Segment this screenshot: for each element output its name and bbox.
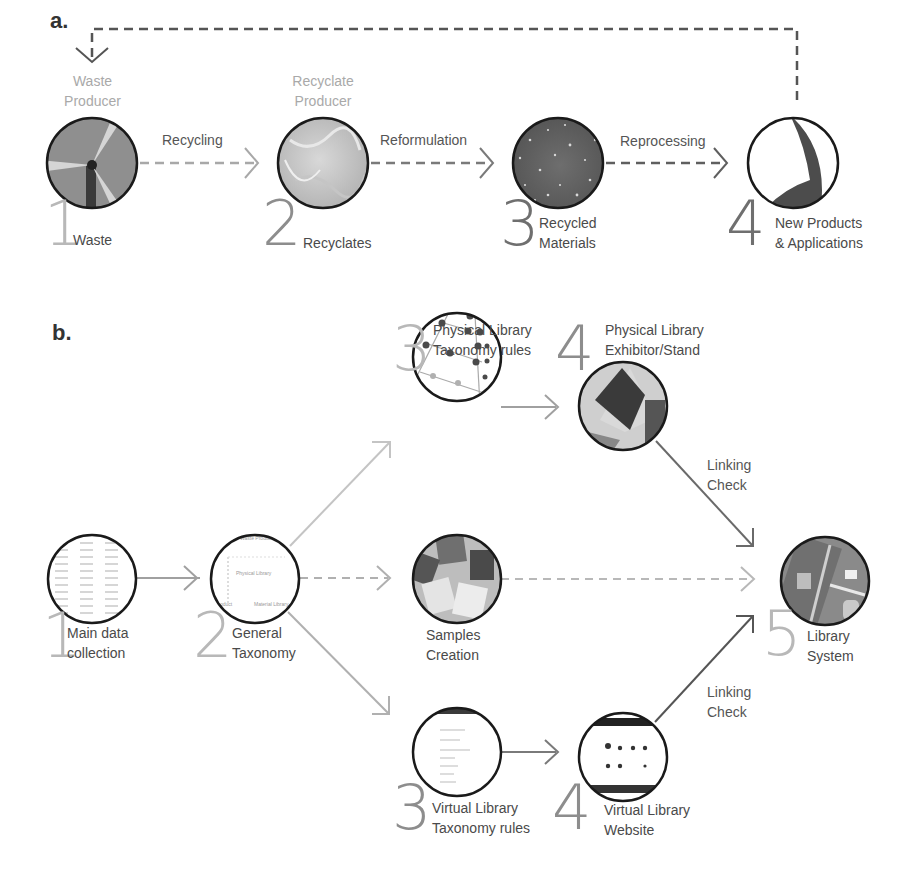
label-line2: collection (67, 643, 128, 663)
node-label-waste: Waste (73, 230, 112, 250)
edge-reformulation (371, 148, 493, 178)
label-line2: & Applications (775, 233, 863, 253)
label-line2: Check (707, 702, 751, 722)
label-line1: Physical Library (605, 320, 704, 340)
node-label-samples-creation: Samples Creation (426, 625, 480, 665)
node-samples-image (408, 531, 505, 627)
taxonomy-text-physical-library: Physical Library (236, 570, 272, 576)
step-number-3: 3 (500, 193, 537, 255)
label-line1: General (232, 623, 296, 643)
node-label-general-taxonomy: General Taxonomy (232, 623, 296, 663)
step-number-5-system: 5 (762, 603, 799, 665)
role-line1: Waste (55, 71, 130, 91)
role-recyclate-producer: Recyclate Producer (283, 71, 363, 111)
edge-general-to-physical-taxonomy (290, 442, 390, 546)
step-number-4: 4 (726, 193, 763, 255)
node-label-recycled-materials: Recycled Materials (539, 213, 597, 253)
step-number-4-virtual: 4 (552, 777, 589, 839)
edge-label-reformulation: Reformulation (380, 130, 467, 150)
label-line1: Virtual Library (432, 798, 530, 818)
edge-reprocessing (606, 148, 727, 178)
edge-label-reprocessing: Reprocessing (620, 131, 706, 151)
taxonomy-text-material-library: Material Library (254, 601, 289, 607)
edge-recycling (140, 148, 258, 178)
label-line2: Creation (426, 645, 480, 665)
node-label-physical-taxonomy: Physical Library Taxonomy rules (433, 320, 532, 360)
role-waste-producer: Waste Producer (55, 71, 130, 111)
label-line2: Taxonomy (232, 643, 296, 663)
label-line1: Virtual Library (604, 800, 690, 820)
panel-a-label: a. (50, 8, 68, 34)
node-label-virtual-taxonomy: Virtual Library Taxonomy rules (432, 798, 530, 838)
panel-b-label: b. (52, 320, 72, 346)
edge-label-recycling: Recycling (162, 130, 223, 150)
step-number-3-physical: 3 (392, 318, 429, 380)
edge-physical-taxonomy-to-stand (501, 395, 558, 419)
edge-label-linking-check-virtual: Linking Check (707, 682, 751, 722)
label-line1: Library (807, 626, 854, 646)
edge-samples-to-system (501, 567, 754, 591)
node-label-library-system: Library System (807, 626, 854, 666)
label-line1: New Products (775, 213, 863, 233)
edge-general-to-virtual-taxonomy (288, 612, 389, 714)
label-line2: Exhibitor/Stand (605, 340, 704, 360)
feedback-loop-arrow (92, 29, 797, 100)
label-line1: Recycled (539, 213, 597, 233)
edge-label-linking-check-physical: Linking Check (707, 455, 751, 495)
label-line1: Linking (707, 455, 751, 475)
edge-general-to-samples (300, 566, 390, 590)
edge-virtual-taxonomy-to-website (501, 740, 558, 764)
node-label-recyclates: Recyclates (303, 233, 371, 253)
role-line2: Producer (55, 91, 130, 111)
node-label-physical-stand: Physical Library Exhibitor/Stand (605, 320, 704, 360)
role-line2: Producer (283, 91, 363, 111)
label-line2: Taxonomy rules (433, 340, 532, 360)
node-label-main-data: Main data collection (67, 623, 128, 663)
role-line1: Recyclate (283, 71, 363, 91)
node-label-virtual-website: Virtual Library Website (604, 800, 690, 840)
step-number-4-physical: 4 (555, 318, 592, 380)
label-line2: Materials (539, 233, 597, 253)
step-number-2: 2 (262, 193, 299, 255)
label-line2: Taxonomy rules (432, 818, 530, 838)
label-line1: Samples (426, 625, 480, 645)
label-line2: Check (707, 475, 751, 495)
label-line1: Main data (67, 623, 128, 643)
label-line2: Website (604, 820, 690, 840)
label-line1: Physical Library (433, 320, 532, 340)
node-label-new-products: New Products & Applications (775, 213, 863, 253)
edge-main-to-general (137, 566, 200, 590)
step-number-2-general: 2 (193, 605, 230, 667)
label-line2: System (807, 646, 854, 666)
label-line1: Linking (707, 682, 751, 702)
step-number-3-virtual: 3 (392, 777, 429, 839)
